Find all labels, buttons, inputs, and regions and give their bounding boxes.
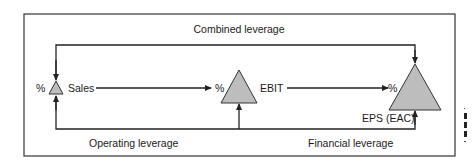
combined-leverage-connector: [56, 45, 415, 75]
sales-percent: %: [36, 82, 45, 94]
cropped-adjacent-text: [464, 108, 467, 142]
eps-label: EPS (EAC): [362, 112, 415, 124]
operating-leverage-label: Operating leverage: [89, 137, 178, 149]
ebit-percent: %: [215, 82, 224, 94]
ebit-triangle: [221, 70, 257, 103]
ebit-label: EBIT: [260, 82, 284, 94]
sales-triangle: [49, 81, 63, 94]
combined-leverage-label: Combined leverage: [193, 23, 284, 35]
leverage-diagram: Combined leverage % Sales % EBIT % EPS (…: [0, 0, 473, 163]
financial-leverage-label: Financial leverage: [308, 137, 393, 149]
eps-percent: %: [388, 82, 397, 94]
sales-label: Sales: [68, 82, 94, 94]
